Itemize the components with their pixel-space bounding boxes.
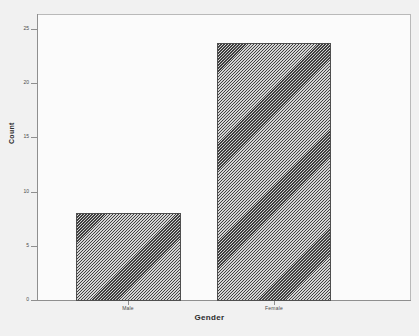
y-axis-tick-20 (31, 83, 37, 84)
y-axis-line (37, 14, 38, 301)
y-axis-tick-0 (31, 300, 37, 301)
y-axis-tick-label-25: 25 (8, 26, 29, 31)
y-axis-tick-label-20: 20 (8, 80, 29, 85)
y-axis-tick-label-5: 5 (8, 243, 29, 248)
bar-male[interactable] (76, 213, 181, 301)
bar-chart-figure: 25 20 15 10 5 0 Male Female Gender Count (0, 0, 419, 336)
y-axis-tick-label-10: 10 (8, 189, 29, 194)
x-axis-tick-label-female: Female (249, 306, 299, 311)
y-axis-tick-25 (31, 29, 37, 30)
y-axis-tick-15 (31, 137, 37, 138)
y-axis-tick-5 (31, 246, 37, 247)
x-axis-tick-label-male: Male (103, 306, 153, 311)
bar-female[interactable] (217, 43, 331, 301)
y-axis-title: Count (8, 122, 15, 144)
y-axis-tick-label-0: 0 (8, 297, 29, 302)
y-axis-tick-10 (31, 192, 37, 193)
x-axis-title: Gender (0, 313, 419, 322)
